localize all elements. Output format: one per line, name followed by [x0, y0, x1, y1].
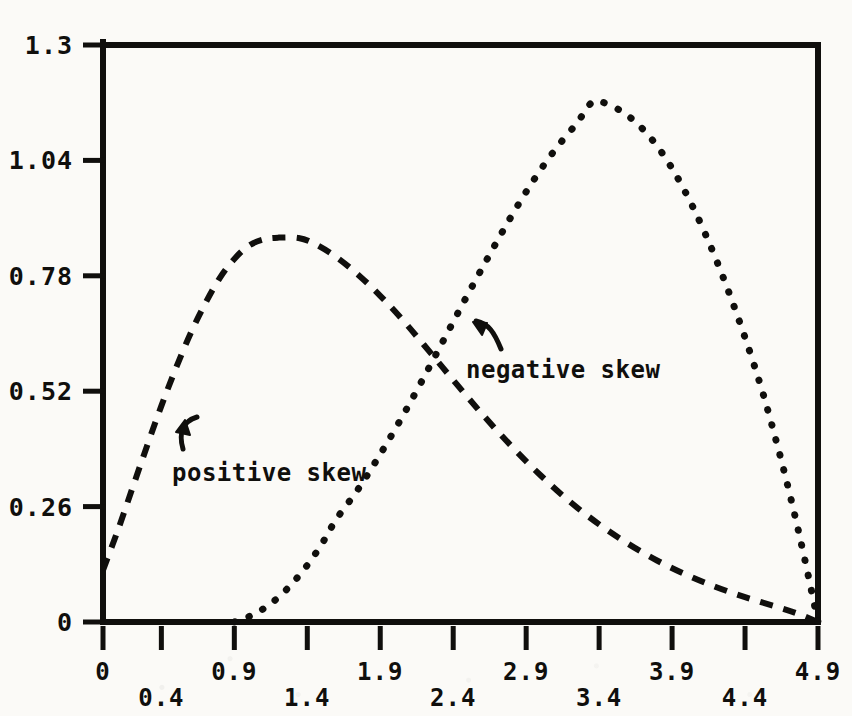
x-tick-label: 0.9 — [211, 658, 257, 686]
y-tick — [83, 620, 105, 625]
negative-skew-arrowhead — [473, 322, 487, 335]
frame-right — [815, 42, 821, 625]
x-tick — [743, 626, 748, 650]
plot-frame — [100, 39, 821, 625]
frame-left — [100, 39, 106, 622]
y-tick-label: 0.78 — [0, 261, 73, 290]
x-tick — [597, 626, 602, 650]
frame-bottom — [100, 619, 821, 625]
x-tick — [451, 626, 456, 650]
x-tick-label: 3.4 — [576, 684, 622, 712]
chart-root: 00.260.520.781.041.3 00.40.91.41.92.42.9… — [0, 0, 852, 716]
x-tick-label: 3.9 — [649, 658, 695, 686]
x-tick — [670, 626, 675, 650]
y-tick-label: 0 — [0, 608, 73, 637]
y-tick-label: 0.52 — [0, 377, 73, 406]
x-tick-label: 2.4 — [430, 684, 476, 712]
x-tick-label: 2.9 — [503, 658, 549, 686]
x-tick — [816, 626, 821, 650]
y-tick — [83, 389, 105, 394]
y-tick — [83, 43, 105, 48]
x-tick — [524, 626, 529, 650]
x-tick-label: 0.4 — [138, 684, 184, 712]
y-tick — [83, 273, 105, 278]
x-tick-label: 1.9 — [357, 658, 403, 686]
annotation-arrows — [176, 321, 501, 449]
annotation-positive-skew: positive skew — [172, 459, 366, 487]
frame-top — [100, 42, 818, 48]
x-tick — [159, 626, 164, 650]
series-positive-skew — [103, 237, 818, 622]
x-tick — [232, 626, 237, 650]
annotation-negative-skew: negative skew — [466, 356, 660, 384]
x-tick-label: 0 — [95, 658, 110, 686]
x-tick — [305, 626, 310, 650]
x-axis-ticks — [101, 626, 821, 650]
y-tick-label: 0.26 — [0, 492, 73, 521]
x-tick-label: 1.4 — [284, 684, 330, 712]
chart-plot-area — [0, 0, 852, 716]
y-tick-label: 1.3 — [0, 31, 73, 60]
x-tick-label: 4.4 — [722, 684, 768, 712]
y-tick-label: 1.04 — [0, 146, 73, 175]
x-tick — [101, 626, 106, 650]
data-series-group — [103, 101, 818, 622]
y-tick — [83, 158, 105, 163]
y-tick — [83, 504, 105, 509]
x-tick — [378, 626, 383, 650]
x-tick-label: 4.9 — [795, 658, 841, 686]
